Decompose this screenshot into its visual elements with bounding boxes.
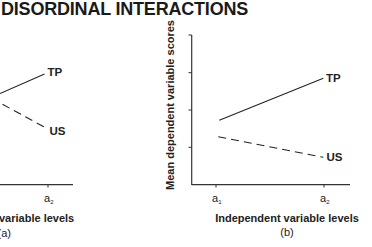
figure: DISORDINAL INTERACTIONS TP US a2 variabl… — [0, 0, 372, 247]
series-tp-label-b: TP — [326, 72, 341, 84]
series-tp-line-b — [219, 78, 323, 120]
series-us-label-b: US — [327, 151, 343, 163]
x-tick-label-a2-b: a2 — [320, 192, 330, 205]
y-axis-title-b: Mean dependent variable scores — [164, 20, 176, 190]
series-us-line-b — [218, 137, 323, 158]
series-us-line-a — [3, 104, 47, 128]
x-tick-label-a1-b: a1 — [212, 192, 222, 205]
series-us-label-a: US — [50, 125, 66, 137]
x-axis-title-b: Independent variable levels — [215, 212, 359, 224]
chart-panel-b: TP US a1 a2 Independent variable levels … — [164, 20, 359, 238]
panel-label-b: (b) — [280, 226, 293, 238]
charts-canvas: TP US a2 variable levels (a) — [0, 0, 372, 247]
chart-panel-a: TP US a2 variable levels (a) — [0, 66, 74, 240]
panel-label-a: (a) — [0, 227, 11, 239]
series-tp-label-a: TP — [48, 66, 63, 78]
x-tick-label-a2-a: a2 — [44, 192, 54, 205]
series-tp-line-a — [0, 74, 45, 94]
x-axis-title-a: variable levels — [0, 212, 74, 224]
